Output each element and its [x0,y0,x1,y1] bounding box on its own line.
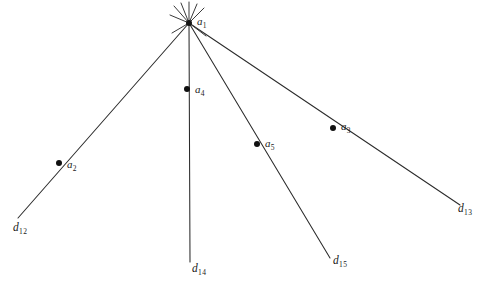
node-label-a4-base: a [195,83,201,95]
node-label-a5-base: a [265,137,271,149]
node-dot-a5 [254,141,260,147]
ray-endpoint-label-d15-subscript: 15 [339,260,348,269]
ray-endpoint-label-d14-subscript: 14 [198,268,207,277]
ray-endpoint-label-d13-subscript: 13 [464,208,473,217]
figure-canvas: d12d14d15d13a1a2a4a5a3 [0,0,479,286]
ray-endpoint-label-d12: d12 [13,222,28,234]
ray-endpoint-label-d12-subscript: 12 [19,227,28,236]
ray-d14 [189,23,190,262]
node-label-a2-base: a [67,158,73,170]
ray-endpoint-label-d13: d13 [458,203,473,215]
node-label-a4: a4 [195,84,205,95]
node-label-a3-subscript: 3 [347,126,351,135]
node-dot-a3 [330,125,336,131]
apex-label-a1: a1 [197,16,207,27]
node-label-a5-subscript: 5 [271,143,275,152]
rays-group [18,23,460,262]
ray-d15 [189,23,330,258]
node-label-a2: a2 [67,159,77,170]
apex-label-a1-subscript: 1 [203,21,207,30]
stub-1 [174,6,189,23]
ray-endpoint-label-d15: d15 [333,255,348,267]
node-label-a2-subscript: 2 [73,164,77,173]
node-label-a5: a5 [265,138,275,149]
ray-diagram-svg [0,0,479,286]
node-label-a3-base: a [341,120,347,132]
node-dot-a2 [56,160,62,166]
node-label-a4-subscript: 4 [201,89,205,98]
stub-4 [189,4,197,23]
node-label-a3: a3 [341,121,351,132]
ray-endpoint-label-d14: d14 [192,263,207,275]
ray-d12 [18,23,189,218]
apex-dot-a1 [186,20,192,26]
apex-label-a1-base: a [197,15,203,27]
node-dot-a4 [184,86,190,92]
ray-d13 [189,23,460,205]
